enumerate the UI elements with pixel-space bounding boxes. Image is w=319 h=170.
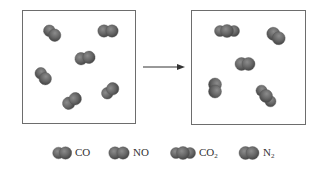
no-molecule-icon	[98, 25, 118, 37]
legend-label-no: NO	[133, 147, 149, 160]
no-molecule-icon	[108, 146, 130, 160]
legend-item-co: CO	[52, 144, 90, 162]
legend-label-co2: CO2	[199, 147, 218, 160]
n2-molecule-icon	[235, 58, 255, 71]
n2-molecule-icon	[209, 78, 222, 98]
product-molecules	[209, 25, 288, 110]
legend-label-n2: N2	[263, 147, 274, 160]
legend-label-co: CO	[75, 147, 90, 160]
no-molecule-icon	[74, 50, 96, 66]
legend-item-no: NO	[108, 144, 149, 162]
co-molecule-icon	[52, 146, 72, 160]
n2-molecule-icon	[264, 25, 288, 48]
co2-molecule-icon	[170, 146, 196, 160]
legend: CO NO CO2 N2	[0, 144, 319, 162]
co-molecule-icon	[99, 80, 122, 102]
co-molecule-icon	[32, 65, 54, 88]
reactant-molecules	[32, 22, 121, 112]
no-molecule-icon	[60, 90, 84, 112]
co-molecule-icon	[41, 22, 64, 44]
legend-item-co2: CO2	[170, 144, 218, 162]
co2-molecule-icon	[215, 25, 240, 38]
n2-molecule-icon	[238, 146, 260, 160]
legend-item-n2: N2	[238, 144, 274, 162]
co2-molecule-icon	[253, 82, 279, 110]
